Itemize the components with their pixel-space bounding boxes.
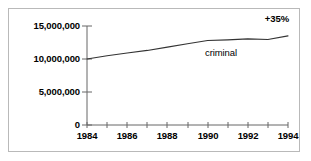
x-axis-label-1994: 1994 — [278, 130, 299, 141]
x-axis-label-1992: 1992 — [238, 130, 259, 141]
y-axis-label-0: 0 — [75, 120, 80, 130]
y-axis-label-10m: 10,000,000 — [33, 54, 80, 64]
chart-figure: 15,000,000 10,000,000 5,000,000 0 1984 1… — [8, 8, 300, 152]
y-axis-label-15m: 15,000,000 — [33, 21, 80, 31]
series-label-criminal: criminal — [205, 47, 237, 58]
x-axis-label-1988: 1988 — [157, 130, 178, 141]
x-axis-label-1990: 1990 — [198, 130, 219, 141]
x-axis-label-1984: 1984 — [77, 130, 98, 141]
series-line-criminal — [87, 36, 288, 59]
y-axis-label-5m: 5,000,000 — [39, 87, 80, 97]
x-axis-label-1986: 1986 — [117, 130, 138, 141]
x-axis-labels: 1984 1986 1988 1990 1992 1994 — [9, 130, 301, 150]
change-annotation: +35% — [265, 13, 289, 24]
